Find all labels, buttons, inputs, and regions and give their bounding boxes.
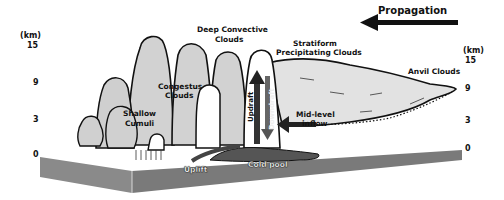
shallow-label-line2: Cumuli bbox=[125, 120, 154, 128]
rain-streaks bbox=[136, 150, 161, 160]
deep-convective-label-line2: Clouds bbox=[215, 36, 243, 44]
left-axis-unit: (km) bbox=[20, 32, 41, 40]
propagation-label: Propagation bbox=[378, 6, 447, 16]
downdraft-label: Downdraft bbox=[268, 88, 276, 130]
updraft-label: Updraft bbox=[247, 92, 255, 122]
left-tick-0: 0 bbox=[33, 151, 39, 159]
right-tick-9: 9 bbox=[465, 85, 471, 93]
congestus-label-line1: Congestus bbox=[158, 83, 202, 91]
stratiform-label-line2: Precipitating Clouds bbox=[276, 49, 362, 57]
congestus-label-line2: Clouds bbox=[165, 92, 193, 100]
deep-convective-label-line1: Deep Convective bbox=[197, 26, 268, 34]
left-tick-15: 15 bbox=[27, 42, 38, 50]
right-axis-unit: (km) bbox=[463, 47, 484, 55]
left-tick-9: 9 bbox=[33, 79, 39, 87]
left-tick-3: 3 bbox=[33, 116, 39, 124]
right-tick-0: 0 bbox=[465, 145, 471, 153]
mid-level-label-line1: Mid-level bbox=[296, 111, 335, 119]
right-tick-15: 15 bbox=[465, 57, 476, 65]
inflow-label-line2: inflow bbox=[302, 120, 328, 128]
uplift-label: Uplift bbox=[184, 166, 207, 174]
right-tick-3: 3 bbox=[465, 117, 471, 125]
stratiform-label-line1: Stratiform bbox=[293, 40, 337, 48]
shallow-label-line1: Shallow bbox=[123, 110, 156, 118]
anvil-label: Anvil Clouds bbox=[408, 68, 460, 76]
propagation-arrow bbox=[360, 14, 458, 31]
cold-pool-label: Cold pool bbox=[248, 161, 287, 169]
